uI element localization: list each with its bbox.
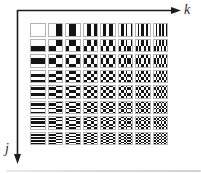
basis-tile-j6-k2 — [65, 116, 81, 130]
basis-tile-j0-k1 — [48, 23, 64, 37]
basis-tile-j0-k0 — [30, 23, 46, 37]
j-axis-arrowhead — [14, 154, 21, 164]
basis-tile-j3-k5 — [118, 70, 134, 84]
basis-tile-j1-k7 — [153, 39, 169, 53]
basis-tile-j5-k3 — [83, 101, 99, 115]
basis-tile-j7-k7 — [153, 132, 169, 146]
basis-tile-j3-k2 — [65, 70, 81, 84]
basis-tile-j4-k0 — [30, 85, 46, 99]
basis-tile-j2-k0 — [30, 54, 46, 68]
basis-tile-j3-k0 — [30, 70, 46, 84]
basis-tile-j2-k3 — [83, 54, 99, 68]
basis-tile-j5-k2 — [65, 101, 81, 115]
basis-tile-j0-k6 — [135, 23, 151, 37]
basis-tile-j6-k3 — [83, 116, 99, 130]
basis-tile-j0-k5 — [118, 23, 134, 37]
basis-tile-j5-k4 — [100, 101, 116, 115]
basis-tile-j0-k3 — [83, 23, 99, 37]
basis-tile-j3-k6 — [135, 70, 151, 84]
basis-tile-j3-k3 — [83, 70, 99, 84]
basis-tile-j6-k6 — [135, 116, 151, 130]
basis-tile-j6-k4 — [100, 116, 116, 130]
basis-tile-j5-k1 — [48, 101, 64, 115]
basis-tile-j4-k4 — [100, 85, 116, 99]
basis-tile-j7-k2 — [65, 132, 81, 146]
basis-tile-j2-k6 — [135, 54, 151, 68]
basis-tile-j6-k1 — [48, 116, 64, 130]
walsh-hadamard-basis-figure: k j — [0, 0, 201, 173]
basis-tile-j1-k6 — [135, 39, 151, 53]
basis-tile-j0-k7 — [153, 23, 169, 37]
basis-tile-j7-k4 — [100, 132, 116, 146]
basis-tile-j4-k6 — [135, 85, 151, 99]
basis-tile-j7-k6 — [135, 132, 151, 146]
basis-tile-j2-k1 — [48, 54, 64, 68]
basis-tile-j4-k7 — [153, 85, 169, 99]
basis-tile-j4-k5 — [118, 85, 134, 99]
basis-image-grid — [30, 23, 168, 145]
basis-tile-j1-k5 — [118, 39, 134, 53]
basis-tile-j4-k2 — [65, 85, 81, 99]
basis-tile-j7-k1 — [48, 132, 64, 146]
basis-tile-j7-k3 — [83, 132, 99, 146]
basis-tile-j2-k7 — [153, 54, 169, 68]
basis-tile-j1-k4 — [100, 39, 116, 53]
j-axis-label: j — [5, 142, 9, 156]
scan-artifact-line — [6, 170, 201, 172]
basis-tile-j3-k1 — [48, 70, 64, 84]
basis-tile-j5-k7 — [153, 101, 169, 115]
basis-tile-j4-k3 — [83, 85, 99, 99]
basis-tile-j3-k7 — [153, 70, 169, 84]
basis-tile-j7-k0 — [30, 132, 46, 146]
basis-tile-j6-k0 — [30, 116, 46, 130]
basis-tile-j2-k2 — [65, 54, 81, 68]
basis-tile-j2-k4 — [100, 54, 116, 68]
basis-tile-j7-k5 — [118, 132, 134, 146]
k-axis-label: k — [184, 3, 190, 17]
basis-tile-j0-k4 — [100, 23, 116, 37]
basis-tile-j4-k1 — [48, 85, 64, 99]
basis-tile-j1-k1 — [48, 39, 64, 53]
basis-tile-j5-k5 — [118, 101, 134, 115]
basis-tile-j1-k2 — [65, 39, 81, 53]
basis-tile-j5-k6 — [135, 101, 151, 115]
basis-tile-j2-k5 — [118, 54, 134, 68]
basis-tile-j3-k4 — [100, 70, 116, 84]
basis-tile-j6-k7 — [153, 116, 169, 130]
basis-tile-j5-k0 — [30, 101, 46, 115]
k-axis-arrowhead — [171, 7, 181, 14]
basis-tile-j1-k3 — [83, 39, 99, 53]
basis-tile-j0-k2 — [65, 23, 81, 37]
basis-tile-j1-k0 — [30, 39, 46, 53]
basis-tile-j6-k5 — [118, 116, 134, 130]
